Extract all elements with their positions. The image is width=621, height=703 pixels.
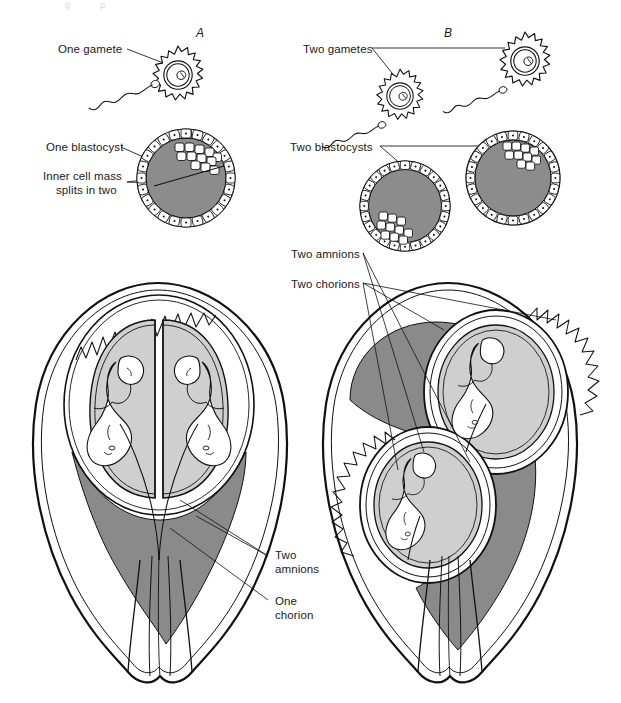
uterus-b	[323, 253, 599, 682]
gamete-ovum-a	[153, 46, 203, 100]
blastocyst-a	[137, 129, 235, 227]
gestational-sac-b-lower	[360, 427, 496, 583]
uterus-a	[33, 283, 287, 682]
blastocyst-b-left	[360, 161, 450, 251]
sperm-b2	[322, 122, 386, 148]
panel-a-group	[89, 46, 235, 227]
leader-one-gamete	[127, 49, 166, 64]
figure-canvas: g p A B One gamete One blastocyst Inner …	[0, 0, 621, 703]
panel-b-group	[322, 32, 560, 251]
diagram-drawing	[0, 0, 621, 703]
sperm-a	[89, 80, 160, 109]
blastocyst-b-right	[466, 131, 560, 225]
sperm-b1	[443, 87, 507, 113]
gamete-ovum-b1	[500, 32, 550, 86]
gamete-ovum-b2	[377, 69, 423, 119]
